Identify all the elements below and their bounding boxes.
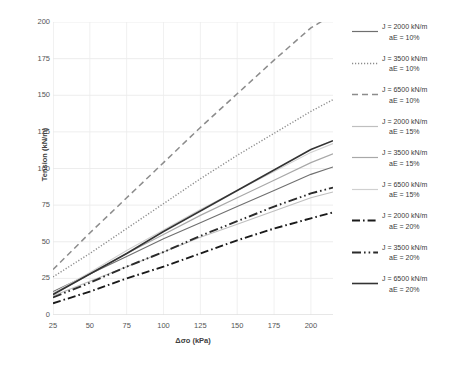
x-tick-label: 175 xyxy=(259,322,289,330)
legend-item[interactable]: J = 2000 kN/maE = 20% xyxy=(352,211,452,243)
legend-line-swatch xyxy=(352,216,378,225)
legend-label-line1: J = 6500 kN/m xyxy=(382,274,454,285)
y-axis-title: Tension (kN/m) xyxy=(40,95,49,215)
series-line xyxy=(53,100,333,277)
legend-label-line2: aE = 15% xyxy=(382,127,454,138)
series-lines xyxy=(53,22,333,315)
legend-item[interactable]: J = 6500 kN/maE = 15% xyxy=(352,180,452,212)
legend-item[interactable]: J = 2000 kN/maE = 10% xyxy=(352,22,452,54)
legend-label-line1: J = 3500 kN/m xyxy=(382,148,454,159)
x-axis-ticks: 255075100125150175200 xyxy=(0,322,455,336)
legend-label-line2: aE = 20% xyxy=(382,222,454,233)
chart-legend: J = 2000 kN/maE = 10%J = 3500 kN/maE = 1… xyxy=(352,22,452,322)
legend-label: J = 6500 kN/maE = 15% xyxy=(382,180,454,201)
legend-line-swatch xyxy=(352,59,378,68)
legend-label-line2: aE = 20% xyxy=(382,285,454,296)
series-line xyxy=(53,167,333,292)
legend-label-line1: J = 3500 kN/m xyxy=(382,243,454,254)
legend-label: J = 2000 kN/maE = 20% xyxy=(382,211,454,232)
legend-item[interactable]: J = 3500 kN/maE = 15% xyxy=(352,148,452,180)
legend-label-line1: J = 6500 kN/m xyxy=(382,180,454,191)
legend-item[interactable]: J = 6500 kN/maE = 20% xyxy=(352,274,452,306)
chart-figure: 0255075100125150175200 Tension (kN/m) 25… xyxy=(0,0,455,369)
legend-item[interactable]: J = 2000 kN/maE = 15% xyxy=(352,117,452,149)
x-tick-label: 25 xyxy=(38,322,68,330)
legend-line-swatch xyxy=(352,153,378,162)
legend-label: J = 2000 kN/maE = 10% xyxy=(382,22,454,43)
legend-label-line1: J = 3500 kN/m xyxy=(382,54,454,65)
legend-label: J = 3500 kN/maE = 15% xyxy=(382,148,454,169)
x-tick-label: 100 xyxy=(149,322,179,330)
legend-label-line1: J = 6500 kN/m xyxy=(382,85,454,96)
x-tick-label: 50 xyxy=(75,322,105,330)
legend-item[interactable]: J = 3500 kN/maE = 10% xyxy=(352,54,452,86)
legend-label-line2: aE = 10% xyxy=(382,64,454,75)
legend-line-swatch xyxy=(352,279,378,288)
legend-line-swatch xyxy=(352,122,378,131)
legend-label-line2: aE = 15% xyxy=(382,190,454,201)
x-axis-title: Δσo (kPa) xyxy=(53,336,333,345)
y-tick-label: 200 xyxy=(20,18,50,26)
legend-label-line2: aE = 15% xyxy=(382,159,454,170)
legend-label-line2: aE = 10% xyxy=(382,96,454,107)
legend-label-line1: J = 2000 kN/m xyxy=(382,22,454,33)
plot-area xyxy=(53,22,333,315)
legend-label: J = 6500 kN/maE = 10% xyxy=(382,85,454,106)
legend-item[interactable]: J = 6500 kN/maE = 10% xyxy=(352,85,452,117)
x-tick-label: 200 xyxy=(296,322,326,330)
x-tick-label: 75 xyxy=(112,322,142,330)
y-tick-label: 50 xyxy=(20,238,50,246)
legend-line-swatch xyxy=(352,185,378,194)
y-tick-label: 25 xyxy=(20,274,50,282)
y-tick-label: 175 xyxy=(20,55,50,63)
x-tick-label: 125 xyxy=(185,322,215,330)
legend-label-line1: J = 2000 kN/m xyxy=(382,211,454,222)
legend-label: J = 6500 kN/maE = 20% xyxy=(382,274,454,295)
legend-line-swatch xyxy=(352,248,378,257)
legend-label: J = 2000 kN/maE = 15% xyxy=(382,117,454,138)
legend-item[interactable]: J = 3500 kN/maE = 20% xyxy=(352,243,452,275)
legend-line-swatch xyxy=(352,27,378,36)
legend-line-swatch xyxy=(352,90,378,99)
series-line xyxy=(53,188,333,298)
legend-label: J = 3500 kN/maE = 10% xyxy=(382,54,454,75)
legend-label-line1: J = 2000 kN/m xyxy=(382,117,454,128)
legend-label-line2: aE = 20% xyxy=(382,253,454,264)
x-tick-label: 150 xyxy=(222,322,252,330)
legend-label: J = 3500 kN/maE = 20% xyxy=(382,243,454,264)
series-line xyxy=(53,141,333,295)
series-line xyxy=(53,22,333,270)
legend-label-line2: aE = 10% xyxy=(382,33,454,44)
y-tick-label: 0 xyxy=(20,311,50,319)
